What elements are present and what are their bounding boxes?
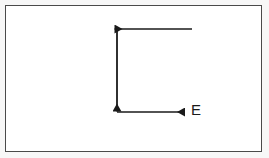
east-axis-label: E (191, 102, 201, 117)
figure-frame (5, 5, 262, 152)
screenshot-root: E (0, 0, 269, 158)
